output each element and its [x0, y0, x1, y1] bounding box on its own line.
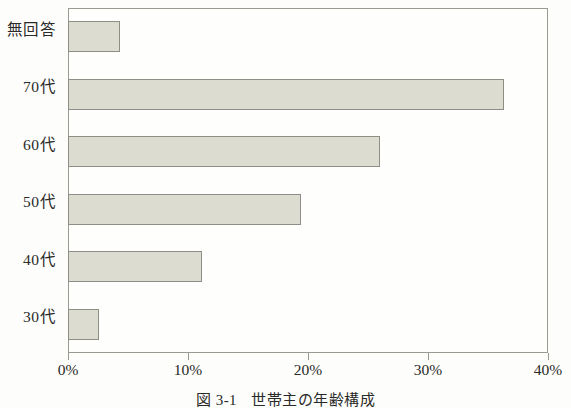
bar-row-40s — [68, 238, 548, 296]
bar-row-60s — [68, 123, 548, 181]
x-axis-tick-1 — [188, 353, 189, 360]
x-axis-tick-4 — [548, 353, 549, 360]
figure-caption: 図 3-1世帯主の年齢構成 — [0, 392, 571, 408]
bar-70s — [68, 79, 504, 110]
bar-50s — [68, 194, 301, 225]
x-axis-tick-2 — [308, 353, 309, 360]
bar-no-answer — [68, 21, 120, 52]
bars-layer — [68, 8, 548, 353]
y-axis-label-5: 30代 — [0, 309, 56, 325]
x-axis-label-4: 40% — [513, 362, 571, 378]
x-axis-tick-3 — [428, 353, 429, 360]
x-axis-label-1: 10% — [153, 362, 223, 378]
x-axis-label-2: 20% — [273, 362, 343, 378]
y-axis-label-0: 無回答 — [0, 22, 56, 38]
bar-row-70s — [68, 66, 548, 124]
bar-row-no-answer — [68, 8, 548, 66]
bar-60s — [68, 136, 380, 167]
figure-caption-number: 図 3-1 — [196, 392, 237, 408]
bar-40s — [68, 251, 202, 282]
bar-row-50s — [68, 181, 548, 239]
bar-row-30s — [68, 296, 548, 354]
x-axis-label-3: 30% — [393, 362, 463, 378]
y-axis-label-3: 50代 — [0, 194, 56, 210]
bar-30s — [68, 309, 99, 340]
x-axis-label-0: 0% — [33, 362, 103, 378]
y-axis-label-2: 60代 — [0, 137, 56, 153]
y-axis-category-labels: 無回答 70代 60代 50代 40代 30代 — [0, 8, 62, 353]
y-axis-label-4: 40代 — [0, 252, 56, 268]
y-axis-label-1: 70代 — [0, 79, 56, 95]
figure-caption-title: 世帯主の年齢構成 — [251, 392, 375, 408]
x-axis-tick-0 — [68, 353, 69, 360]
figure-age-composition-chart: 無回答 70代 60代 50代 40代 30代 0% 10% 20% 30% 4… — [0, 0, 571, 408]
